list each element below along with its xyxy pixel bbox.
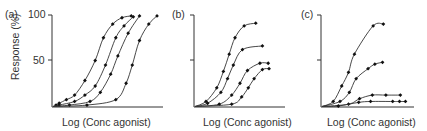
data-point-marker — [138, 39, 142, 43]
panel-b-label: (b) — [172, 8, 185, 20]
panel-c: (c) Log (Conc agonist) — [301, 8, 416, 128]
data-point-marker — [120, 16, 124, 20]
dose-response-curve — [53, 17, 133, 107]
y-tick-50: 50 — [33, 54, 45, 66]
data-point-marker — [233, 36, 237, 40]
panel-c-curves — [322, 22, 407, 108]
data-point-marker — [73, 100, 77, 104]
y-tick-100: 100 — [28, 8, 46, 20]
data-point-marker — [215, 86, 219, 90]
data-point-marker — [83, 79, 87, 83]
panel-a-x-axis-label: Log (Conc agonist) — [62, 116, 151, 128]
data-point-marker — [381, 22, 385, 26]
data-point-marker — [347, 70, 351, 74]
data-point-marker — [226, 77, 230, 81]
data-point-marker — [384, 93, 388, 97]
data-point-marker — [126, 31, 130, 35]
panel-b-axes — [190, 15, 285, 107]
data-point-marker — [109, 72, 113, 76]
dose-response-curve — [53, 16, 131, 107]
data-point-marker — [370, 93, 374, 97]
dose-response-curve — [53, 16, 157, 107]
data-point-marker — [381, 60, 385, 64]
panel-c-x-axis-label: Log (Conc agonist) — [327, 116, 416, 128]
data-point-marker — [266, 61, 270, 65]
data-point-marker — [404, 100, 408, 104]
panel-c-label: (c) — [301, 8, 313, 20]
data-point-marker — [230, 102, 234, 106]
data-point-marker — [254, 21, 258, 25]
data-point-marker — [130, 63, 134, 67]
data-point-marker — [357, 100, 361, 104]
dose-response-curve — [322, 62, 383, 106]
data-point-marker — [391, 100, 395, 104]
data-point-marker — [398, 100, 402, 104]
panel-b-x-axis-label: Log (Conc agonist) — [203, 116, 292, 128]
data-point-marker — [358, 97, 362, 101]
data-point-marker — [373, 62, 377, 66]
data-point-marker — [261, 44, 265, 48]
data-point-marker — [102, 36, 106, 40]
data-point-marker — [93, 59, 97, 63]
y-axis-label: Response (%) — [9, 13, 21, 80]
data-point-marker — [353, 52, 357, 56]
data-point-marker — [369, 100, 373, 104]
data-point-marker — [340, 84, 344, 88]
panel-b-curves — [195, 21, 271, 106]
data-point-marker — [267, 67, 271, 71]
panel-c-axes — [317, 15, 414, 107]
panel-b: (b) Log (Conc agonist) — [172, 8, 292, 128]
dose-response-curve — [195, 23, 256, 106]
data-point-marker — [104, 63, 108, 67]
data-point-marker — [227, 52, 231, 56]
data-point-marker — [114, 36, 118, 40]
data-point-marker — [85, 103, 89, 107]
data-point-marker — [258, 61, 262, 65]
panel-a-curves — [53, 14, 159, 107]
data-point-marker — [64, 98, 68, 102]
data-point-marker — [124, 81, 128, 85]
data-point-marker — [116, 54, 120, 58]
chart-figure: (a) 100 50 Response (%) Log (Conc agonis… — [0, 0, 427, 131]
data-point-marker — [338, 100, 342, 104]
data-point-marker — [88, 100, 92, 104]
panel-a: (a) 100 50 Response (%) Log (Conc agonis… — [5, 8, 163, 128]
data-point-marker — [398, 93, 402, 97]
data-point-marker — [231, 63, 235, 67]
data-point-marker — [221, 70, 225, 74]
